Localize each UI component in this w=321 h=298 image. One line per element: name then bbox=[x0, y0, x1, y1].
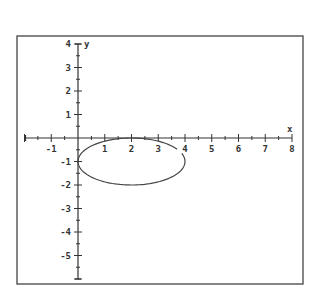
x-tick-label: 8 bbox=[289, 144, 294, 154]
tick-labels: -1123456784321-1-2-3-4-5 bbox=[46, 39, 295, 261]
x-tick-label: 4 bbox=[182, 144, 188, 154]
y-tick-label: 2 bbox=[66, 86, 71, 96]
y-tick-label: 4 bbox=[66, 39, 72, 49]
x-tick-label: 5 bbox=[209, 144, 214, 154]
y-tick-label: 3 bbox=[66, 63, 71, 73]
x-tick-label: -1 bbox=[46, 144, 57, 154]
y-tick-label: -2 bbox=[60, 180, 71, 190]
y-tick-label: -3 bbox=[60, 204, 71, 214]
x-tick-label: 3 bbox=[156, 144, 161, 154]
y-tick-label: 1 bbox=[66, 110, 71, 120]
x-tick-label: 6 bbox=[236, 144, 241, 154]
y-axis-label: y bbox=[84, 39, 90, 49]
x-axis-label: x bbox=[287, 124, 293, 134]
y-tick-label: -1 bbox=[60, 157, 71, 167]
x-tick-label: 2 bbox=[129, 144, 134, 154]
plot-canvas: -1123456784321-1-2-3-4-5 x y bbox=[0, 0, 321, 298]
x-tick-label: 1 bbox=[102, 144, 107, 154]
y-tick-label: -4 bbox=[60, 227, 71, 237]
y-tick-label: -5 bbox=[60, 251, 71, 261]
x-tick-label: 7 bbox=[263, 144, 268, 154]
